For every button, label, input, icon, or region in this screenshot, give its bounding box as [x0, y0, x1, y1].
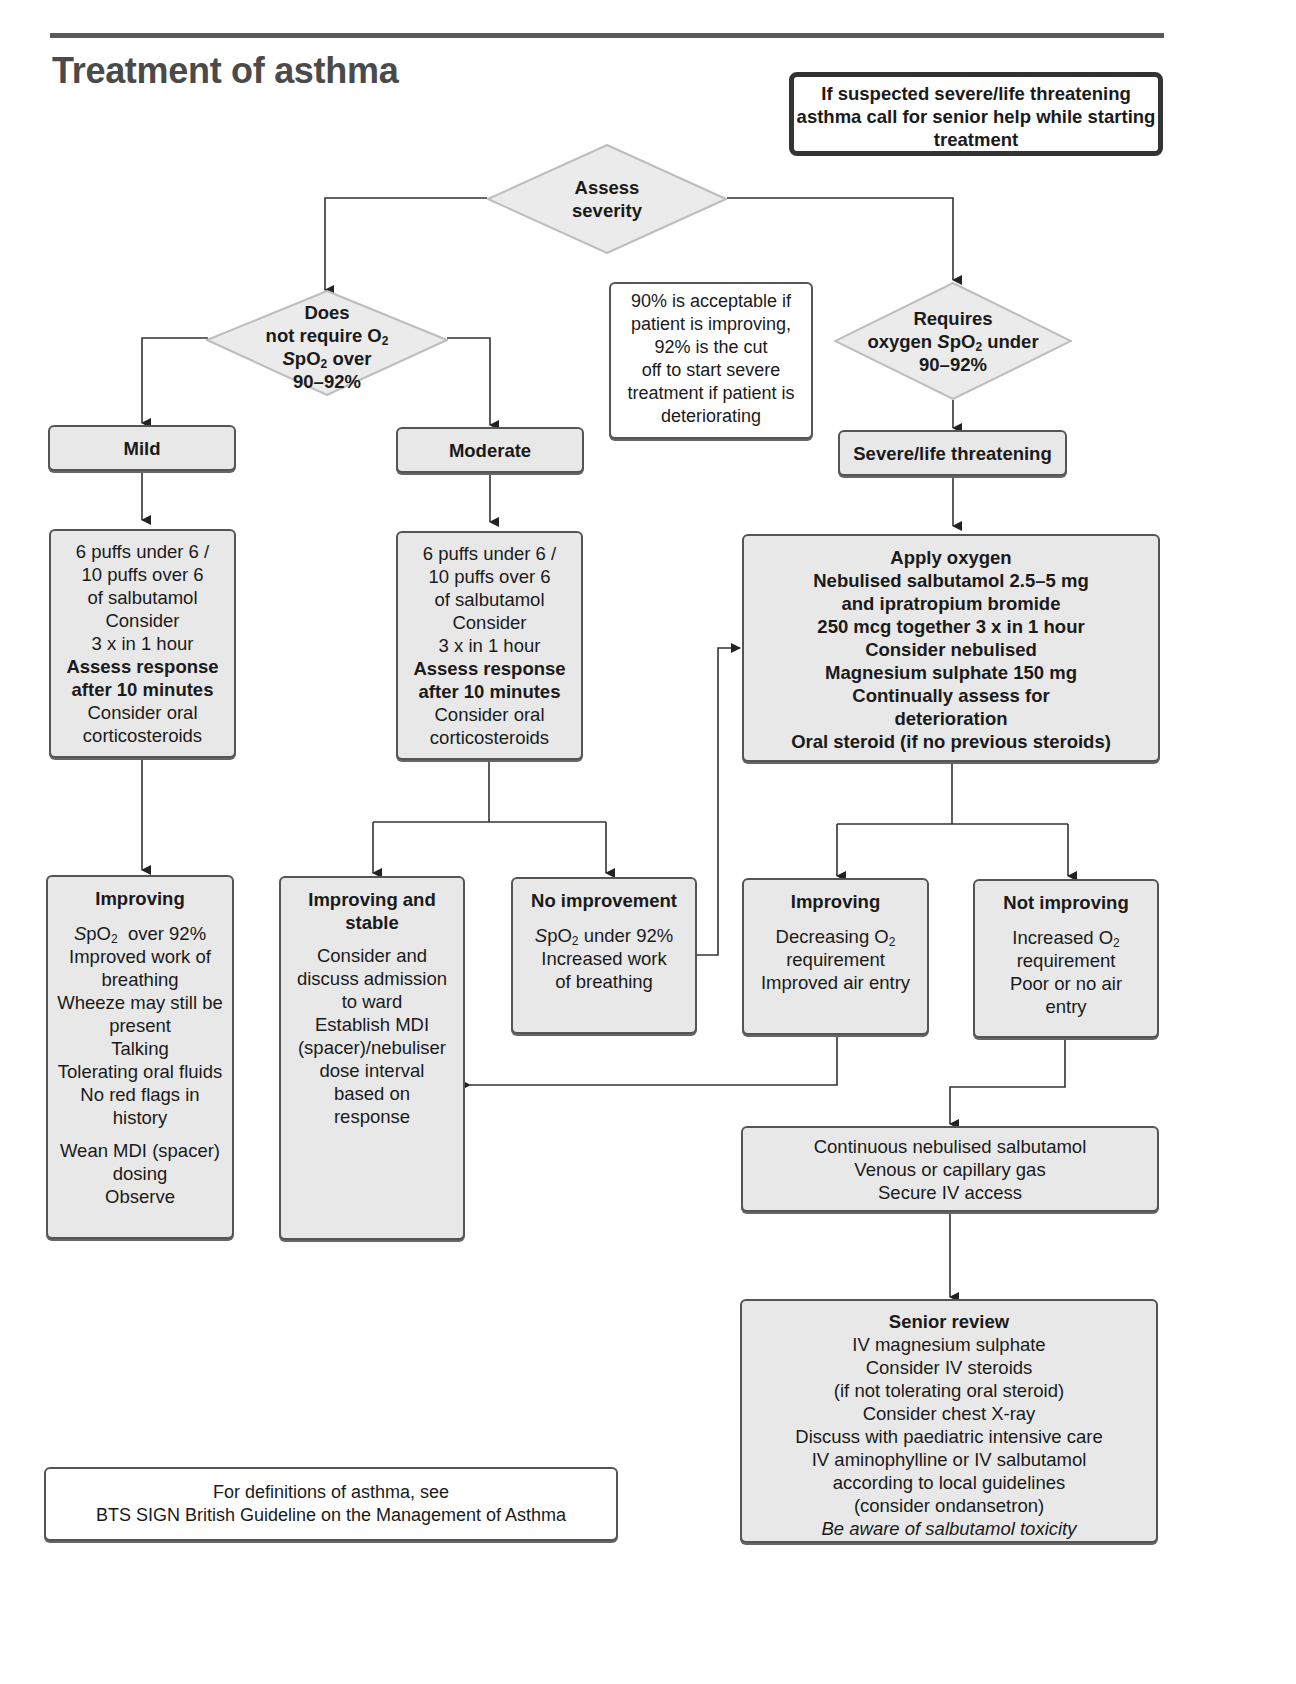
outcome-line: dose interval	[320, 1059, 425, 1082]
treatment-line: 6 puffs under 6 /	[423, 542, 556, 565]
decision-label: Does	[304, 301, 349, 324]
treatment-line: Oral steroid (if no previous steroids)	[791, 730, 1111, 753]
treatment-line: Consider nebulised	[865, 638, 1037, 661]
decision-label: 90–92%	[919, 353, 987, 376]
note-line: 92% is the cut	[654, 336, 767, 359]
treatment-line-emphasis: Assess response	[413, 657, 565, 680]
step-line: Discuss with paediatric intensive care	[795, 1425, 1102, 1448]
assess-severity-decision: Assess severity	[487, 144, 727, 254]
treatment-line: 10 puffs over 6	[428, 565, 550, 588]
treatment-line: Magnesium sulphate 150 mg	[825, 661, 1077, 684]
step-line: Consider chest X-ray	[863, 1402, 1036, 1425]
outcome-line: response	[334, 1105, 410, 1128]
outcome-line: No red flags in	[80, 1083, 199, 1106]
outcome-line: breathing	[101, 968, 178, 991]
outcome-line: requirement	[1017, 949, 1116, 972]
footer-line: For definitions of asthma, see	[213, 1481, 449, 1504]
treatment-line: 3 x in 1 hour	[439, 634, 541, 657]
treatment-line: Apply oxygen	[890, 546, 1011, 569]
moderate-no-improvement-outcome: No improvement SpO2 under 92% Increased …	[511, 877, 697, 1034]
outcome-line: Poor or no air	[1010, 972, 1122, 995]
mild-treatment: 6 puffs under 6 / 10 puffs over 6 of sal…	[49, 529, 236, 758]
treatment-line: corticosteroids	[83, 724, 202, 747]
outcome-line: (spacer)/nebuliser	[298, 1036, 446, 1059]
step-line: Venous or capillary gas	[854, 1158, 1045, 1181]
note-line: deteriorating	[661, 405, 761, 428]
warning-line: If suspected severe/life threatening	[821, 83, 1130, 104]
mild-improving-outcome: Improving SpO2 over 92% Improved work of…	[46, 875, 234, 1239]
treatment-line: Consider	[105, 609, 179, 632]
outcome-line: Wean MDI (spacer)	[60, 1139, 220, 1162]
treatment-line: 6 puffs under 6 /	[76, 540, 209, 563]
severe-treatment: Apply oxygen Nebulised salbutamol 2.5–5 …	[742, 534, 1160, 762]
step-line: (consider ondansetron)	[854, 1494, 1044, 1517]
outcome-line: SpO2 under 92%	[535, 924, 673, 947]
decision-label: oxygen SpO2 under	[867, 330, 1038, 353]
step-line: Continuous nebulised salbutamol	[814, 1135, 1087, 1158]
assess-label: severity	[572, 199, 642, 222]
step-line: Consider IV steroids	[866, 1356, 1033, 1379]
outcome-line: Talking	[111, 1037, 169, 1060]
note-line: treatment if patient is	[627, 382, 794, 405]
treatment-line: Nebulised salbutamol 2.5–5 mg	[813, 569, 1089, 592]
decision-label: Requires	[913, 307, 992, 330]
moderate-treatment: 6 puffs under 6 / 10 puffs over 6 of sal…	[396, 531, 583, 760]
treatment-line-emphasis: after 10 minutes	[72, 678, 214, 701]
outcome-title: stable	[345, 911, 398, 934]
outcome-line: discuss admission	[297, 967, 447, 990]
treatment-line: of salbutamol	[434, 588, 544, 611]
treatment-line-emphasis: after 10 minutes	[419, 680, 561, 703]
treatment-line: of salbutamol	[87, 586, 197, 609]
treatment-line: deterioration	[894, 707, 1007, 730]
severe-improving-outcome: Improving Decreasing O2 requirement Impr…	[742, 878, 929, 1035]
decision-label: 90–92%	[293, 370, 361, 393]
decision-label: SpO2 over	[283, 347, 372, 370]
treatment-line: 3 x in 1 hour	[92, 632, 194, 655]
note-line: patient is improving,	[631, 313, 791, 336]
severity-label: Severe/life threatening	[853, 442, 1051, 465]
treatment-line: Consider oral	[434, 703, 544, 726]
step-line: (if not tolerating oral steroid)	[834, 1379, 1064, 1402]
outcome-line: Decreasing O2	[776, 925, 896, 948]
outcome-line: dosing	[113, 1162, 168, 1185]
note-line: off to start severe	[642, 359, 781, 382]
senior-help-warning: If suspected severe/life threatening ast…	[789, 72, 1163, 156]
outcome-line: requirement	[786, 948, 885, 971]
outcome-line: entry	[1045, 995, 1086, 1018]
outcome-line: Wheeze may still be	[57, 991, 223, 1014]
treatment-line: corticosteroids	[430, 726, 549, 749]
treatment-line: Consider oral	[87, 701, 197, 724]
decision-label: not require O2	[266, 324, 389, 347]
step-title: Senior review	[889, 1310, 1009, 1333]
continuous-nebulised-step: Continuous nebulised salbutamol Venous o…	[741, 1126, 1159, 1212]
treatment-line: 10 puffs over 6	[81, 563, 203, 586]
header-rule	[50, 33, 1164, 38]
outcome-title: Improving and	[308, 888, 435, 911]
outcome-title: Improving	[95, 887, 184, 910]
outcome-line: Tolerating oral fluids	[58, 1060, 223, 1083]
severity-mild: Mild	[48, 425, 236, 471]
outcome-line: Establish MDI	[315, 1013, 429, 1036]
step-line: according to local guidelines	[833, 1471, 1065, 1494]
treatment-line: 250 mcg together 3 x in 1 hour	[817, 615, 1084, 638]
outcome-line: based on	[334, 1082, 410, 1105]
outcome-line: Improved air entry	[761, 971, 910, 994]
outcome-line: Improved work of	[69, 945, 211, 968]
step-line: Secure IV access	[878, 1181, 1022, 1204]
outcome-line: Increased O2	[1012, 926, 1119, 949]
treatment-line: and ipratropium bromide	[842, 592, 1061, 615]
severity-label: Mild	[124, 437, 161, 460]
severity-severe: Severe/life threatening	[838, 430, 1067, 476]
outcome-line: Consider and	[317, 944, 427, 967]
footer-line: BTS SIGN British Guideline on the Manage…	[96, 1504, 566, 1527]
note-line: 90% is acceptable if	[631, 290, 791, 313]
requires-oxygen-decision: Requires oxygen SpO2 under 90–92%	[834, 282, 1072, 400]
outcome-title: No improvement	[531, 889, 677, 912]
step-line: IV magnesium sulphate	[852, 1333, 1045, 1356]
severity-moderate: Moderate	[396, 427, 584, 473]
outcome-line: present	[109, 1014, 171, 1037]
outcome-line: Increased work	[541, 947, 666, 970]
outcome-line: history	[113, 1106, 168, 1129]
spo2-threshold-note: 90% is acceptable if patient is improvin…	[609, 282, 813, 439]
severe-not-improving-outcome: Not improving Increased O2 requirement P…	[973, 879, 1159, 1038]
